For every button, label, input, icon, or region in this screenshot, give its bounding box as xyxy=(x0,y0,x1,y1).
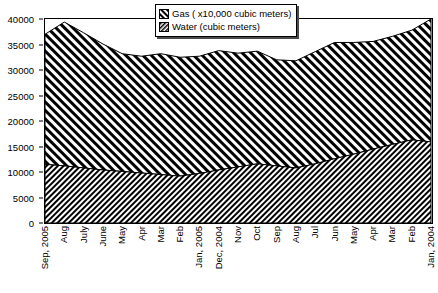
x-axis-tick-label: May xyxy=(117,226,127,244)
x-axis-tick-label: Feb xyxy=(407,226,417,242)
x-axis-tick-label: July xyxy=(79,226,89,243)
x-axis-tick-label: Apr xyxy=(137,226,147,241)
legend-item-water: Water (cubic meters) xyxy=(159,20,291,33)
x-axis-tick-label: Dec, 2004 xyxy=(214,226,224,269)
x-axis-tick-label: Apr xyxy=(368,226,378,241)
x-axis-tick-label: May xyxy=(349,226,359,244)
y-axis-tick-mark xyxy=(39,44,43,45)
x-axis-tick-label: Oct xyxy=(252,226,262,241)
y-axis-tick-label: 35000 xyxy=(8,39,34,50)
legend-label-water: Water (cubic meters) xyxy=(172,21,260,32)
x-axis-tick-label: Jun xyxy=(330,226,340,241)
y-axis-tick-mark xyxy=(39,146,43,147)
y-axis-tick-label: 30000 xyxy=(8,65,34,76)
y-axis-tick-mark xyxy=(39,223,43,224)
y-axis-tick-mark xyxy=(39,172,43,173)
plot-area xyxy=(44,18,433,224)
legend-swatch-water-icon xyxy=(159,22,169,32)
x-axis-tick-label: June xyxy=(98,226,108,247)
y-axis-tick-mark xyxy=(39,95,43,96)
x-axis-tick-label: Jul xyxy=(310,226,320,238)
x-axis-tick-label: Jan, 2004 xyxy=(426,226,436,268)
x-axis-tick-label: Mar xyxy=(156,226,166,242)
x-axis-tick-label: Sep xyxy=(272,226,282,243)
y-axis-tick-label: 15000 xyxy=(8,141,34,152)
chart-container: 0500010000150002000025000300003500040000 xyxy=(0,0,438,293)
y-axis-tick-label: 25000 xyxy=(8,90,34,101)
plot-clip xyxy=(45,19,432,223)
y-axis-tick-label: 0 xyxy=(29,218,34,229)
x-axis: Sep, 2005AugJulyJuneMayAprMarFebJan, 200… xyxy=(44,226,433,293)
y-axis-tick-mark xyxy=(39,70,43,71)
legend-label-gas: Gas ( x10,000 cubic meters) xyxy=(172,8,291,19)
x-axis-tick-label: Nov xyxy=(233,226,243,243)
y-axis-tick-label: 20000 xyxy=(8,116,34,127)
legend-swatch-gas-icon xyxy=(159,9,169,19)
legend-item-gas: Gas ( x10,000 cubic meters) xyxy=(159,7,291,20)
y-axis: 0500010000150002000025000300003500040000 xyxy=(0,0,40,293)
y-axis-tick-mark xyxy=(39,19,43,20)
x-axis-tick-label: Aug xyxy=(291,226,301,243)
x-axis-tick-label: Sep, 2005 xyxy=(40,226,50,269)
y-axis-tick-label: 10000 xyxy=(8,167,34,178)
y-axis-tick-label: 5000 xyxy=(13,192,34,203)
y-axis-tick-mark xyxy=(39,197,43,198)
x-axis-tick-label: Aug xyxy=(59,226,69,243)
y-axis-tick-label: 40000 xyxy=(8,14,34,25)
y-axis-tick-mark xyxy=(39,121,43,122)
chart-legend: Gas ( x10,000 cubic meters) Water (cubic… xyxy=(155,4,297,37)
stacked-area-svg xyxy=(45,19,432,223)
x-axis-tick-label: Jan, 2005 xyxy=(194,226,204,268)
x-axis-tick-label: Mar xyxy=(387,226,397,242)
x-axis-tick-label: Feb xyxy=(175,226,185,242)
